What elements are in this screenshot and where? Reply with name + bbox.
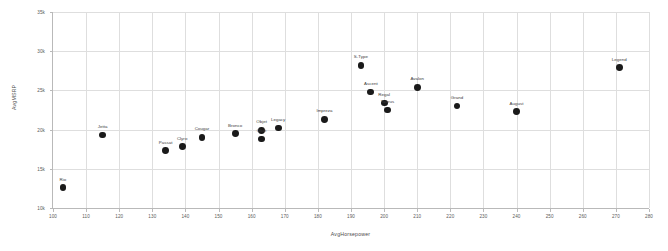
data-point-marker[interactable] — [275, 125, 282, 132]
data-point-label: Passat — [159, 140, 173, 145]
y-tick-mark — [50, 12, 53, 13]
x-tick-label: 120 — [115, 214, 123, 219]
data-point-label: Legend — [612, 57, 627, 62]
x-tick-mark — [417, 209, 418, 212]
data-point-label: Objet — [256, 119, 267, 124]
data-point-label: S-Type — [354, 54, 368, 59]
data-point-marker[interactable] — [99, 132, 106, 139]
x-tick-mark — [517, 209, 518, 212]
x-tick-label: 250 — [546, 214, 554, 219]
data-point-label: Impreza — [316, 108, 332, 113]
data-point-marker[interactable] — [199, 134, 206, 141]
gridline-vertical — [417, 12, 418, 208]
x-tick-label: 100 — [49, 214, 57, 219]
y-tick-mark — [50, 51, 53, 52]
x-tick-label: 110 — [82, 214, 90, 219]
data-point-marker[interactable] — [258, 136, 265, 143]
y-tick-mark — [50, 169, 53, 170]
x-tick-label: 130 — [148, 214, 156, 219]
gridline-horizontal — [53, 12, 649, 13]
gridline-vertical — [86, 12, 87, 208]
data-point-label: August — [510, 101, 524, 106]
x-tick-mark — [53, 209, 54, 212]
gridline-vertical — [649, 12, 650, 208]
x-tick-mark — [285, 209, 286, 212]
x-tick-mark — [252, 209, 253, 212]
gridline-vertical — [185, 12, 186, 208]
x-tick-label: 180 — [314, 214, 322, 219]
x-tick-mark — [86, 209, 87, 212]
data-point-marker[interactable] — [384, 107, 391, 114]
gridline-horizontal — [53, 130, 649, 131]
x-tick-label: 170 — [281, 214, 289, 219]
y-tick-label: 25k — [37, 88, 45, 93]
y-tick-label: 20k — [37, 127, 45, 132]
data-point-marker[interactable] — [162, 147, 169, 154]
gridline-vertical — [616, 12, 617, 208]
data-point-marker[interactable] — [454, 103, 461, 110]
x-tick-label: 210 — [413, 214, 421, 219]
x-tick-mark — [384, 209, 385, 212]
data-point-marker[interactable] — [414, 84, 421, 91]
gridline-vertical — [285, 12, 286, 208]
data-point-marker[interactable] — [179, 143, 186, 150]
data-point-marker[interactable] — [367, 89, 374, 96]
x-tick-mark — [616, 209, 617, 212]
data-point-label: Rio — [60, 177, 67, 182]
data-point-label: Legacy — [271, 117, 285, 122]
x-tick-mark — [351, 209, 352, 212]
x-tick-label: 150 — [215, 214, 223, 219]
y-tick-label: 10k — [37, 206, 45, 211]
data-point-label: Grand — [451, 95, 463, 100]
gridline-vertical — [550, 12, 551, 208]
data-point-label: Taurus — [381, 99, 394, 104]
y-tick-label: 15k — [37, 166, 45, 171]
x-tick-label: 270 — [612, 214, 620, 219]
x-tick-mark — [152, 209, 153, 212]
data-point-label: Ascent — [364, 81, 378, 86]
data-point-label: Clyro — [177, 136, 188, 141]
gridline-vertical — [119, 12, 120, 208]
gridline-horizontal — [53, 51, 649, 52]
gridline-vertical — [351, 12, 352, 208]
x-tick-mark — [450, 209, 451, 212]
x-tick-label: 260 — [579, 214, 587, 219]
gridline-vertical — [252, 12, 253, 208]
x-tick-label: 200 — [380, 214, 388, 219]
x-tick-label: 140 — [181, 214, 189, 219]
x-tick-mark — [185, 209, 186, 212]
x-tick-mark — [119, 209, 120, 212]
gridline-vertical — [152, 12, 153, 208]
y-tick-mark — [50, 208, 53, 209]
scatter-chart: 1001101201301401501601701801902002102202… — [0, 0, 668, 251]
x-tick-label: 190 — [347, 214, 355, 219]
data-point-label: Avalon — [410, 76, 424, 81]
x-tick-label: 280 — [645, 214, 653, 219]
x-axis-title: AvgHorsepower — [52, 231, 649, 237]
data-point-marker[interactable] — [321, 116, 328, 123]
data-point-marker[interactable] — [616, 64, 623, 71]
data-point-marker[interactable] — [232, 130, 239, 137]
gridline-vertical — [483, 12, 484, 208]
x-tick-mark — [649, 209, 650, 212]
y-axis-title: AvgMSRP — [11, 85, 17, 110]
data-point-marker[interactable] — [60, 184, 67, 191]
gridline-vertical — [219, 12, 220, 208]
x-tick-mark — [219, 209, 220, 212]
data-point-label: Cougar — [195, 126, 210, 131]
gridline-vertical — [583, 12, 584, 208]
gridline-horizontal — [53, 90, 649, 91]
data-point-marker[interactable] — [513, 108, 520, 115]
y-tick-mark — [50, 130, 53, 131]
y-tick-mark — [50, 90, 53, 91]
x-tick-mark — [550, 209, 551, 212]
y-tick-label: 35k — [37, 10, 45, 15]
x-tick-label: 230 — [479, 214, 487, 219]
x-tick-mark — [483, 209, 484, 212]
x-tick-mark — [318, 209, 319, 212]
data-point-label: Okot — [257, 128, 266, 133]
data-point-label: Bronco — [228, 123, 242, 128]
data-point-label: Jetta — [98, 124, 108, 129]
data-point-marker[interactable] — [358, 62, 365, 69]
gridline-vertical — [450, 12, 451, 208]
